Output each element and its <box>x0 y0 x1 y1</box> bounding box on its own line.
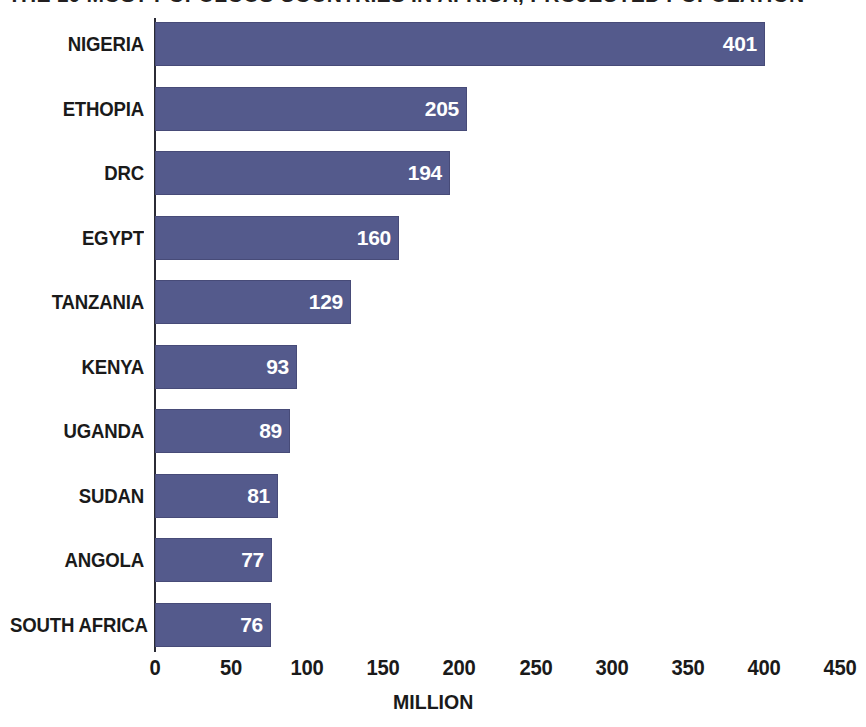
bar: 89 <box>155 409 290 453</box>
bar: 81 <box>155 474 278 518</box>
bar-chart: THE 10 MOST POPULOUS COUNTRIES IN AFRICA… <box>0 0 866 727</box>
bar-row: NIGERIA401 <box>0 22 866 66</box>
bar-value-label: 93 <box>266 345 289 389</box>
category-label: KENYA <box>10 345 144 389</box>
category-label: UGANDA <box>10 409 144 453</box>
bar-value-label: 401 <box>723 22 757 66</box>
x-axis-tick-label: 200 <box>443 655 476 681</box>
x-axis-title: MILLION <box>0 690 866 714</box>
bar: 401 <box>155 22 765 66</box>
bar-value-label: 76 <box>240 603 263 647</box>
category-label: SUDAN <box>10 474 144 518</box>
bar-row: SOUTH AFRICA76 <box>0 603 866 647</box>
bar-value-label: 129 <box>309 280 343 324</box>
bar-row: ANGOLA77 <box>0 538 866 582</box>
bar-row: SUDAN81 <box>0 474 866 518</box>
category-label: TANZANIA <box>10 280 144 324</box>
x-axis-tick-label: 250 <box>519 655 552 681</box>
bar-row: TANZANIA129 <box>0 280 866 324</box>
bar: 194 <box>155 151 450 195</box>
plot-area: NIGERIA401ETHOPIA205DRC194EGYPT160TANZAN… <box>0 0 866 727</box>
bar-value-label: 205 <box>425 87 459 131</box>
bar: 129 <box>155 280 351 324</box>
bar-row: DRC194 <box>0 151 866 195</box>
bar: 205 <box>155 87 467 131</box>
bar-value-label: 160 <box>357 216 391 260</box>
bar-value-label: 194 <box>408 151 442 195</box>
bar: 77 <box>155 538 272 582</box>
x-axis-title-label: MILLION <box>393 690 473 714</box>
bar: 93 <box>155 345 297 389</box>
x-axis-tick-label: 450 <box>824 655 857 681</box>
bar: 160 <box>155 216 399 260</box>
x-axis-tick-label: 50 <box>220 655 242 681</box>
bar-value-label: 89 <box>259 409 282 453</box>
x-axis-tick-label: 150 <box>367 655 400 681</box>
bar-value-label: 81 <box>247 474 270 518</box>
bar-row: ETHOPIA205 <box>0 87 866 131</box>
x-axis-tick-label: 300 <box>595 655 628 681</box>
x-axis-ticks: 050100150200250300350400450 <box>0 655 866 683</box>
bar-row: KENYA93 <box>0 345 866 389</box>
category-label: NIGERIA <box>10 22 144 66</box>
bar-value-label: 77 <box>241 538 264 582</box>
category-label: ETHOPIA <box>10 87 144 131</box>
bar-row: EGYPT160 <box>0 216 866 260</box>
category-label: SOUTH AFRICA <box>10 603 144 647</box>
x-axis-tick-label: 350 <box>671 655 704 681</box>
x-axis-tick-label: 0 <box>150 655 161 681</box>
x-axis-tick-label: 100 <box>291 655 324 681</box>
category-label: EGYPT <box>10 216 144 260</box>
category-label: ANGOLA <box>10 538 144 582</box>
bar-row: UGANDA89 <box>0 409 866 453</box>
x-axis-tick-label: 400 <box>747 655 780 681</box>
bar: 76 <box>155 603 271 647</box>
category-label: DRC <box>10 151 144 195</box>
